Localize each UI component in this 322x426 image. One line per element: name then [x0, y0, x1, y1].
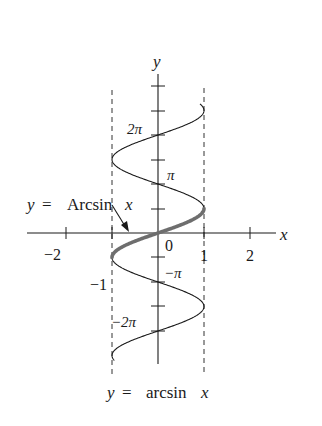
- svg-text:=: =: [122, 383, 132, 402]
- y-tick-label-2pi: 2π: [127, 121, 143, 137]
- y-tick-label-pi: π: [167, 167, 175, 183]
- principal-branch-label: y = Arcsin x: [25, 195, 133, 214]
- svg-text:=: =: [42, 195, 52, 214]
- y-axis: [151, 74, 165, 364]
- svg-text:y: y: [105, 383, 115, 402]
- y-axis-label: y: [151, 52, 161, 71]
- arcsin-diagram: y x −2 −1 0 1 2 2π π −π −2π y = Arcsin x…: [0, 0, 322, 426]
- x-tick-label-2: 2: [246, 247, 254, 264]
- svg-text:Arcsin: Arcsin: [67, 195, 113, 214]
- x-tick-label-1: 1: [200, 247, 208, 264]
- x-tick-label-neg2: −2: [44, 246, 61, 263]
- figure-caption: y = arcsin x: [105, 383, 209, 402]
- svg-text:x: x: [124, 195, 133, 214]
- y-tick-label-neg-pi: −π: [164, 265, 182, 281]
- svg-text:x: x: [200, 383, 209, 402]
- svg-text:y: y: [25, 195, 35, 214]
- x-axis: [27, 227, 276, 239]
- svg-text:arcsin: arcsin: [146, 383, 187, 402]
- x-tick-label-0: 0: [165, 237, 173, 254]
- x-axis-label: x: [279, 225, 288, 244]
- y-tick-label-neg-2pi: −2π: [111, 314, 137, 330]
- x-tick-label-neg1: −1: [90, 276, 107, 293]
